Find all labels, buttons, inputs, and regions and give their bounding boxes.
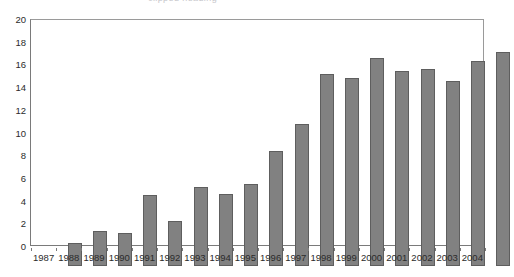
y-axis-tick-label: 20 (15, 14, 26, 25)
x-axis-tick-label: 2001 (386, 252, 407, 263)
x-axis-tick-mark (157, 248, 158, 251)
bar-slot (314, 40, 339, 266)
y-axis-tick-label: 2 (21, 218, 26, 229)
x-axis-tick-mark (460, 248, 461, 251)
x-axis-tick-mark (56, 248, 57, 251)
bar-slot (365, 40, 390, 266)
x-axis-tick-label: 1994 (210, 252, 231, 263)
x-axis-tick-mark (308, 248, 309, 251)
x-axis-tick-label: 2000 (361, 252, 382, 263)
x-axis-tick-mark (384, 248, 385, 251)
x-axis-tick-label: 1992 (159, 252, 180, 263)
bar[interactable] (421, 69, 435, 266)
y-axis-tick-label: 4 (21, 195, 26, 206)
x-axis-tick-mark (283, 248, 284, 251)
x-axis-tick-label: 2002 (411, 252, 432, 263)
x-axis-tick-label: 1987 (33, 252, 54, 263)
x-axis-tick-mark (208, 248, 209, 251)
x-axis-tick-label: 1999 (336, 252, 357, 263)
x-axis: 1987198819891990199119921993199419951996… (31, 248, 483, 268)
x-axis-tick-mark (182, 248, 183, 251)
x-axis-tick-label: 1990 (109, 252, 130, 263)
x-axis-tick-label: 1996 (260, 252, 281, 263)
bar-slot (163, 40, 188, 266)
y-axis-tick-label: 0 (21, 241, 26, 252)
bars-layer (62, 40, 514, 266)
x-axis-tick-label: 2004 (462, 252, 483, 263)
y-axis-tick-label: 16 (15, 59, 26, 70)
bar-slot (264, 40, 289, 266)
x-axis-tick-mark (258, 248, 259, 251)
y-axis-tick-label: 18 (15, 36, 26, 47)
x-axis-tick-label: 1998 (310, 252, 331, 263)
bar[interactable] (345, 78, 359, 266)
bar[interactable] (370, 58, 384, 266)
clipped-title-strip: clipped heading (0, 0, 494, 8)
bar-slot (239, 40, 264, 266)
bar-slot (339, 40, 364, 266)
x-axis-tick-mark (409, 248, 410, 251)
x-axis-tick-mark (359, 248, 360, 251)
x-axis-tick-label: 1989 (83, 252, 104, 263)
plot-area (30, 19, 484, 246)
bar-slot (440, 40, 465, 266)
x-axis-tick-label: 1995 (235, 252, 256, 263)
y-axis-tick-label: 6 (21, 172, 26, 183)
bar-slot (188, 40, 213, 266)
bar-slot (138, 40, 163, 266)
x-axis-tick-mark (435, 248, 436, 251)
x-axis-tick-label: 2003 (437, 252, 458, 263)
x-axis-tick-mark (233, 248, 234, 251)
bar-slot (390, 40, 415, 266)
x-axis-tick-mark (107, 248, 108, 251)
bar[interactable] (496, 52, 510, 266)
bar-slot (213, 40, 238, 266)
x-axis-tick-label: 1988 (58, 252, 79, 263)
bar-slot (491, 40, 514, 266)
x-axis-tick-mark (81, 248, 82, 251)
bar[interactable] (295, 124, 309, 266)
bar-slot (289, 40, 314, 266)
y-axis-tick-label: 12 (15, 104, 26, 115)
y-axis: 02468101214161820 (0, 19, 30, 246)
y-axis-tick-label: 8 (21, 150, 26, 161)
x-axis-tick-label: 1997 (285, 252, 306, 263)
bar[interactable] (471, 61, 485, 266)
bar-slot (112, 40, 137, 266)
chart-title-clipped: clipped heading (148, 0, 217, 3)
bar-slot (62, 40, 87, 266)
bar[interactable] (446, 81, 460, 266)
bar[interactable] (320, 74, 334, 266)
bar-slot (415, 40, 440, 266)
x-axis-tick-label: 1991 (134, 252, 155, 263)
x-axis-tick-mark (334, 248, 335, 251)
bar-slot (87, 40, 112, 266)
y-axis-tick-label: 10 (15, 127, 26, 138)
x-axis-tick-mark (31, 248, 32, 251)
x-axis-tick-label: 1993 (184, 252, 205, 263)
bar[interactable] (395, 71, 409, 266)
y-axis-tick-label: 14 (15, 82, 26, 93)
x-axis-tick-mark (132, 248, 133, 251)
x-axis-tick-mark (485, 248, 486, 251)
bar-slot (466, 40, 491, 266)
